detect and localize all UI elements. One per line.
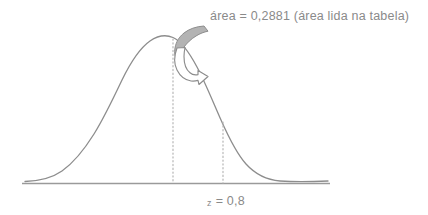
z-value-text: = 0,8 (216, 194, 245, 208)
z-axis-label: z = 0,8 (207, 193, 245, 211)
normal-curve-figure: área = 0,2881 (área lida na tabela) z = … (0, 0, 428, 215)
z-variable-symbol: z (207, 198, 212, 208)
curved-arrow-icon (175, 48, 208, 85)
area-annotation-label: área = 0,2881 (área lida na tabela) (210, 8, 409, 24)
normal-curve-svg (0, 0, 428, 215)
